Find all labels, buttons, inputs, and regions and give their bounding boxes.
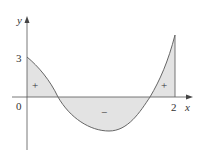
x-axis-arrow-icon xyxy=(186,95,193,100)
y-axis-label: y xyxy=(16,14,22,26)
region-sign-right: + xyxy=(161,79,167,91)
y-tick-label: 3 xyxy=(16,52,22,64)
y-axis-arrow-icon xyxy=(25,16,30,23)
origin-label: 0 xyxy=(16,100,22,112)
region-sign-left: + xyxy=(32,79,38,91)
x-tick-label: 2 xyxy=(171,101,177,113)
x-axis-label: x xyxy=(184,101,190,113)
region-sign-middle: − xyxy=(101,106,107,118)
area-diagram: y 3 0 2 x + − + xyxy=(0,0,203,154)
